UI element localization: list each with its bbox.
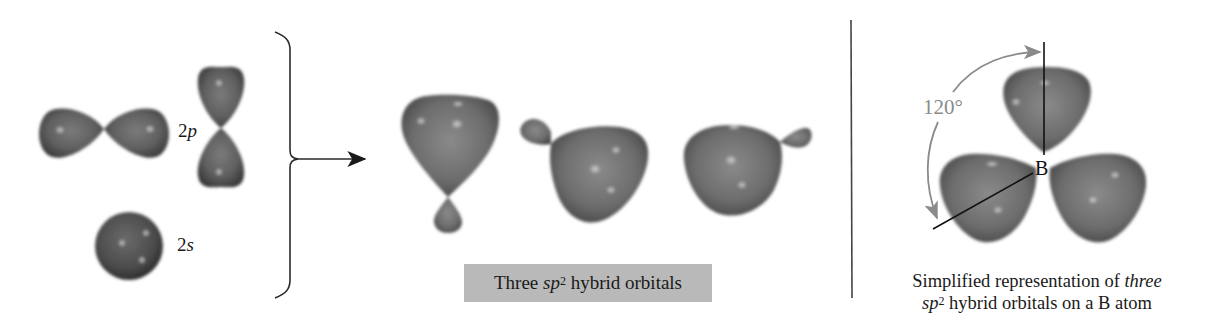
caption-superscript: 2: [560, 274, 566, 289]
label-italic: s: [187, 234, 194, 255]
caption-italic: sp: [543, 272, 560, 294]
orbital-2p-vertical: [198, 67, 245, 188]
orbital-2s-label: 2s: [177, 235, 194, 254]
caption-text: Simplified representation of: [912, 271, 1124, 291]
label-prefix: 2: [178, 120, 188, 141]
caption-text: hybrid orbitals on a B atom: [944, 293, 1152, 313]
curly-brace: [275, 32, 298, 298]
boron-atom-label: B: [1035, 157, 1048, 180]
caption-line-2: sp2 hybrid orbitals on a B atom: [862, 292, 1212, 314]
bond-angle-label: 120°: [923, 95, 963, 120]
label-italic: p: [188, 120, 198, 141]
caption-line-1: Simplified representation of three: [862, 270, 1212, 292]
sp2-orbital-2: [520, 119, 648, 223]
hybrid-orbitals-caption: Three sp2 hybrid orbitals: [464, 264, 712, 302]
orbital-2p-label: 2p: [178, 121, 197, 140]
simplified-representation-caption: Simplified representation of three sp2 h…: [862, 270, 1212, 314]
caption-text: hybrid orbitals: [566, 272, 682, 294]
sp2-orbital-3: [684, 124, 812, 216]
caption-text: Three: [494, 272, 543, 294]
sp2-trigonal-lobes: [940, 67, 1146, 242]
panel-divider: [851, 20, 852, 298]
caption-italic: three: [1124, 271, 1161, 291]
sp2-orbital-1: [402, 95, 499, 233]
orbital-2p-horizontal: [39, 109, 169, 158]
orbital-2s: [95, 212, 163, 280]
angle-arc-lower: [928, 122, 938, 218]
caption-italic: sp: [922, 293, 938, 313]
caption-superscript: 2: [938, 294, 944, 308]
label-prefix: 2: [177, 234, 187, 255]
